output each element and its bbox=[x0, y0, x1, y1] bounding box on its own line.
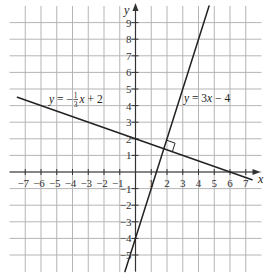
x-axis-label: x bbox=[257, 172, 264, 186]
x-tick-label: 5 bbox=[212, 177, 218, 189]
y-tick-label: 2 bbox=[126, 133, 132, 145]
line-label-2: y = 3x − 4 bbox=[183, 92, 230, 105]
y-tick-label: 7 bbox=[126, 50, 132, 62]
axes bbox=[10, 3, 261, 272]
y-tick-label: −2 bbox=[120, 199, 132, 211]
y-axis-label: y bbox=[123, 3, 130, 17]
x-tick-label: 4 bbox=[196, 177, 202, 189]
x-tick-label: 2 bbox=[164, 177, 170, 189]
y-tick-label: 6 bbox=[126, 66, 132, 78]
y-tick-label: −1 bbox=[120, 183, 132, 195]
line-label-text: + 2 bbox=[85, 93, 103, 105]
y-tick-label: 4 bbox=[126, 100, 132, 112]
x-tick-label: −7 bbox=[17, 177, 29, 189]
line-label-text: = − bbox=[54, 93, 73, 105]
x-tick-label: 3 bbox=[180, 177, 186, 189]
x-tick-label: −6 bbox=[33, 177, 45, 189]
y-tick-label: −3 bbox=[120, 216, 132, 228]
x-tick-label: −4 bbox=[65, 177, 77, 189]
x-tick-label: −5 bbox=[49, 177, 61, 189]
y-tick-label: 1 bbox=[126, 149, 132, 161]
y-tick-label: 3 bbox=[126, 116, 132, 128]
fraction-denominator: 3 bbox=[74, 100, 78, 109]
y-tick-label: 5 bbox=[126, 83, 132, 95]
x-tick-label: −3 bbox=[80, 177, 92, 189]
y-tick-label: 9 bbox=[126, 17, 132, 29]
y-tick-label: 8 bbox=[126, 33, 132, 45]
line-label-text: − 4 bbox=[212, 92, 230, 104]
y-axis-arrow-icon bbox=[133, 3, 139, 11]
line-label-text: = 3 bbox=[189, 92, 207, 104]
x-tick-label: −2 bbox=[96, 177, 108, 189]
y-tick-label: −4 bbox=[120, 232, 132, 244]
coordinate-plane: −7−6−5−4−3−2−11234567987654321−1−2−3−4−5… bbox=[0, 0, 269, 275]
x-tick-label: 6 bbox=[227, 177, 233, 189]
